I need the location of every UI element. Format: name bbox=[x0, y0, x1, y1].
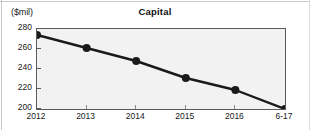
y-tick-label-260: 260 bbox=[8, 43, 32, 52]
y-tick-mark-200 bbox=[37, 108, 41, 109]
series-line-capital bbox=[37, 35, 285, 109]
y-tick-mark-240 bbox=[37, 68, 41, 69]
x-tick-mark-2016 bbox=[234, 105, 235, 109]
y-tick-mark-220 bbox=[37, 88, 41, 89]
data-point-2014 bbox=[132, 57, 140, 65]
chart-title: Capital bbox=[0, 6, 310, 17]
y-tick-label-220: 220 bbox=[8, 83, 32, 92]
y-tick-label-280: 280 bbox=[8, 23, 32, 32]
plot-area bbox=[36, 28, 286, 110]
x-tick-label-2012: 2012 bbox=[27, 111, 46, 121]
data-point-2013 bbox=[83, 44, 91, 52]
data-point-2012 bbox=[37, 31, 41, 39]
data-point-6-17 bbox=[281, 105, 285, 109]
x-tick-mark-2014 bbox=[135, 105, 136, 109]
data-point-2015 bbox=[182, 74, 190, 82]
y-tick-mark-260 bbox=[37, 48, 41, 49]
y-tick-mark-280 bbox=[37, 28, 41, 29]
x-tick-label-2014: 2014 bbox=[126, 111, 145, 121]
x-axis-labels: 201220132014201520166-17 bbox=[0, 111, 310, 125]
x-tick-label-6-17: 6-17 bbox=[275, 111, 292, 121]
data-point-2016 bbox=[231, 86, 239, 94]
x-tick-mark-2013 bbox=[86, 105, 87, 109]
capital-chart-card: ($mil) Capital 280260240220200 201220132… bbox=[0, 0, 310, 130]
x-tick-label-2015: 2015 bbox=[175, 111, 194, 121]
x-tick-mark-2015 bbox=[185, 105, 186, 109]
card-top-border bbox=[0, 1, 310, 2]
capital-line-series bbox=[37, 29, 285, 109]
y-tick-label-240: 240 bbox=[8, 63, 32, 72]
x-tick-label-2016: 2016 bbox=[225, 111, 244, 121]
x-tick-label-2013: 2013 bbox=[76, 111, 95, 121]
